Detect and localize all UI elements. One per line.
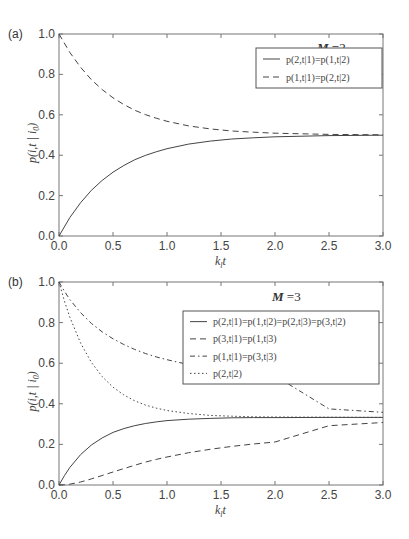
x-tick-label: 2.0 [267, 488, 284, 502]
y-axis-label: p(i,t | i0) [25, 371, 41, 412]
y-tick-label: 0.0 [38, 229, 55, 243]
panel-label: (a) [8, 27, 23, 41]
y-tick-label: 1.0 [38, 27, 55, 41]
y-tick-label: 0.8 [38, 316, 55, 330]
legend-entry: p(2,t|1)=p(1,t|2)=p(2,t|3)=p(3,t|2) [213, 316, 346, 328]
x-tick-label: 1.5 [213, 488, 230, 502]
y-tick-label: 0.0 [38, 478, 55, 492]
legend-entry: p(3,t|1)=p(1,t|3) [213, 333, 277, 345]
y-tick-label: 0.2 [38, 437, 55, 451]
y-tick-label: 0.2 [38, 189, 55, 203]
y-tick-label: 0.8 [38, 67, 55, 81]
m-annotation: M =3 [271, 289, 301, 304]
legend-entry: p(1,t|1)=p(3,t|3) [213, 351, 277, 363]
x-tick-label: 3.0 [375, 488, 392, 502]
x-axis-label: klt [215, 254, 227, 270]
x-tick-label: 2.5 [321, 239, 338, 253]
y-axis-label-end: ) [25, 371, 39, 376]
x-tick-label: 2.0 [267, 239, 284, 253]
panel-a: 0.00.51.01.52.02.53.00.00.20.40.60.81.0(… [8, 27, 392, 270]
x-tick-label: 1.0 [159, 488, 176, 502]
y-tick-label: 1.0 [38, 275, 55, 289]
x-axis-label-var: t [223, 254, 227, 268]
m-annotation-value: =3 [284, 289, 301, 304]
x-tick-label: 2.5 [321, 488, 338, 502]
panel-label: (b) [8, 275, 23, 289]
legend-entry: p(2,t|2) [213, 368, 242, 380]
y-tick-label: 0.4 [38, 148, 55, 162]
series-line-dashed [59, 423, 383, 486]
m-annotation-symbol: M [271, 289, 284, 304]
x-axis-label: klt [215, 503, 227, 519]
x-tick-label: 3.0 [375, 239, 392, 253]
figure: 0.00.51.01.52.02.53.00.00.20.40.60.81.0(… [0, 0, 409, 539]
y-tick-label: 0.4 [38, 397, 55, 411]
x-tick-label: 0.5 [105, 488, 122, 502]
x-axis-label-var: t [223, 503, 227, 517]
legend-entry: p(2,t|1)=p(1,t|2) [286, 54, 350, 66]
legend-entry: p(1,t|1)=p(2,t|2) [286, 72, 350, 84]
y-tick-label: 0.6 [38, 108, 55, 122]
y-axis-label: p(i,t | i0) [25, 123, 41, 164]
x-tick-label: 0.5 [105, 239, 122, 253]
series-line-solid [59, 135, 383, 236]
y-tick-label: 0.6 [38, 356, 55, 370]
series-line-solid [59, 417, 383, 485]
x-tick-label: 1.5 [213, 239, 230, 253]
y-axis-label-end: ) [25, 123, 39, 128]
x-tick-label: 1.0 [159, 239, 176, 253]
panel-b: 0.00.51.01.52.02.53.00.00.20.40.60.81.0(… [8, 275, 392, 519]
